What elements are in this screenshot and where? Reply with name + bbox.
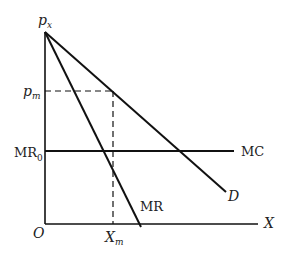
- mc-label: MC: [241, 144, 264, 159]
- marginal-revenue-curve: [45, 32, 141, 227]
- mr0-label: MR0: [14, 145, 43, 163]
- px-label: px: [38, 12, 52, 30]
- pm-label: pm: [23, 83, 41, 101]
- demand-curve: [45, 32, 226, 192]
- x-axis-label: X: [263, 215, 275, 231]
- mr-label: MR: [140, 199, 164, 214]
- origin-label: O: [33, 225, 45, 241]
- xm-label: Xm: [104, 229, 124, 247]
- monopoly-diagram: px pm MR0 O Xm X MC D MR: [0, 0, 282, 257]
- demand-label: D: [227, 188, 239, 204]
